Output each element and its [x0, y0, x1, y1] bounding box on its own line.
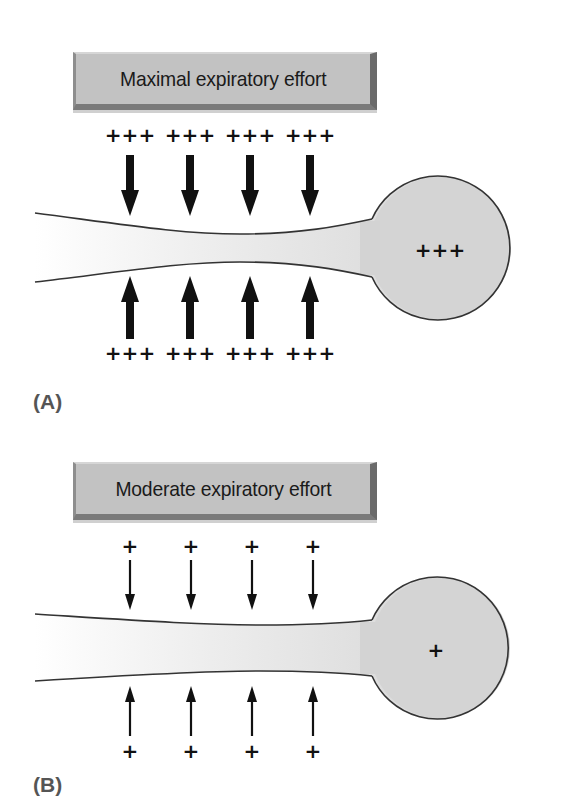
panel-a: +++ +++ +++ +++ +++	[35, 123, 511, 365]
panel-label-b: (B)	[33, 773, 62, 796]
compression-arrows-top-a	[121, 155, 319, 216]
arrow-down-icon	[247, 560, 257, 610]
pressure-label: +++	[165, 123, 215, 147]
pressure-label: +	[183, 739, 200, 763]
pressure-label: +++	[225, 341, 275, 365]
panel-b: + + + + + + +	[35, 534, 510, 763]
external-pressure-top-a: +++ +++ +++ +++	[105, 123, 335, 147]
arrow-down-icon	[241, 155, 259, 216]
panel-label-a: (A)	[33, 390, 62, 414]
pressure-label: +	[122, 534, 139, 558]
pressure-label: +++	[105, 341, 155, 365]
arrow-down-icon	[308, 560, 318, 610]
pressure-label: +	[305, 739, 322, 763]
airway-alveolus-b: +	[35, 577, 510, 719]
arrow-up-icon	[125, 686, 135, 736]
arrow-down-icon	[121, 155, 139, 216]
pressure-label: +	[305, 534, 322, 558]
arrow-up-icon	[301, 276, 319, 339]
arrow-up-icon	[186, 686, 196, 736]
pressure-label: +++	[225, 123, 275, 147]
effort-label-b: Moderate expiratory effort	[115, 477, 331, 501]
arrow-down-icon	[125, 560, 135, 610]
pressure-label: +	[122, 739, 139, 763]
pressure-label: +++	[285, 341, 335, 365]
pressure-label: +++	[165, 341, 215, 365]
arrow-up-icon	[241, 276, 259, 339]
pressure-label: +++	[285, 123, 335, 147]
external-pressure-bottom-b: + + + +	[122, 739, 322, 763]
arrow-up-icon	[121, 276, 139, 339]
external-pressure-bottom-a: +++ +++ +++ +++	[105, 341, 335, 365]
arrow-down-icon	[181, 155, 199, 216]
compression-arrows-bottom-b	[125, 686, 318, 736]
compression-arrows-bottom-a	[121, 276, 319, 339]
external-pressure-top-b: + + + +	[122, 534, 322, 558]
pressure-label: +	[244, 534, 261, 558]
arrow-down-icon	[301, 155, 319, 216]
arrow-up-icon	[181, 276, 199, 339]
pressure-label: +++	[105, 123, 155, 147]
diagram-canvas: +++ +++ +++ +++ +++	[0, 0, 561, 796]
compression-arrows-top-b	[125, 560, 318, 610]
arrow-up-icon	[308, 686, 318, 736]
airway-alveolus-a: +++	[35, 176, 511, 320]
pressure-label: +	[183, 534, 200, 558]
alveolar-pressure-a: +++	[415, 238, 465, 262]
arrow-up-icon	[247, 686, 257, 736]
arrow-down-icon	[186, 560, 196, 610]
alveolar-pressure-b: +	[428, 638, 445, 662]
pressure-label: +	[244, 739, 261, 763]
effort-label-box-b: Moderate expiratory effort	[73, 462, 377, 520]
